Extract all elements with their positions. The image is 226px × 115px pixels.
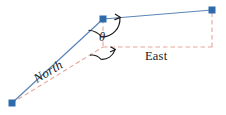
- vertex-point-marker: [100, 16, 107, 23]
- dashed-component-group: [12, 10, 213, 103]
- leg-origin-to-vertex-line: [12, 19, 103, 103]
- terminal-point-marker: [209, 7, 216, 14]
- origin-point-marker: [9, 100, 16, 107]
- north-component-line: [12, 47, 103, 103]
- diagram-canvas: [0, 0, 226, 115]
- solid-vector-group: [12, 10, 212, 103]
- point-marker-group: [9, 7, 216, 107]
- vector-diagram-figure: North East θ: [0, 0, 226, 115]
